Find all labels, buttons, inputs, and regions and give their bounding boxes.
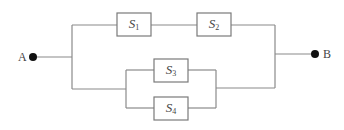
terminal-b-dot — [311, 50, 319, 58]
terminal-b-label: B — [323, 48, 331, 60]
s1-label: S1 — [117, 17, 151, 35]
terminal-a-dot — [29, 53, 37, 61]
s3-label: S3 — [154, 63, 188, 81]
reliability-diagram: A B S1 S2 S3 S4 — [0, 0, 344, 130]
s4-label: S4 — [154, 101, 188, 119]
terminal-a-label: A — [18, 51, 27, 63]
s2-label: S2 — [197, 17, 231, 35]
